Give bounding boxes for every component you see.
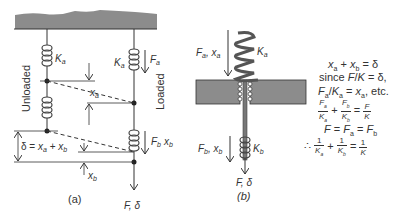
- ground-fixed-support: [15, 10, 157, 29]
- output-label-a: F, δ: [124, 200, 140, 211]
- plate-left: [196, 80, 240, 104]
- bottom-load-label: Fb, xb: [198, 143, 223, 155]
- top-load-label: Fa, xa: [196, 47, 221, 59]
- fraction-1-k: 1K: [359, 138, 366, 157]
- force-a-label: Fa: [150, 54, 160, 66]
- force-b-label: Fb: [151, 136, 161, 148]
- spring-a-loaded: [129, 49, 139, 70]
- diagram-b: Fa, xa Ka Fb, xb Kb F, δ (b): [196, 30, 306, 202]
- spring-a-coil: [235, 33, 258, 81]
- fraction-fa-ka: FaKa: [318, 98, 328, 124]
- fraction-1-kb: 1Kb: [337, 136, 347, 159]
- fraction-1-ka: 1Ka: [314, 136, 324, 159]
- equation-line-2: since F/K = δ,: [319, 71, 387, 83]
- therefore-symbol: ∴: [304, 140, 311, 152]
- caption-b: (b): [237, 190, 251, 202]
- spring-a-loaded-label: Ka: [114, 57, 125, 69]
- delta-label: δ = xa + xb: [21, 141, 67, 153]
- fraction-fb-kb: FbKb: [341, 98, 351, 124]
- output-label-b: F, δ: [236, 177, 252, 188]
- spring-a-label-b: Ka: [257, 46, 268, 58]
- spring-b-unloaded: [42, 97, 52, 118]
- diagram-a: Unloaded Loaded Ka Ka Fa Fb xb xa xb δ =…: [14, 10, 173, 211]
- unloaded-label: Unloaded: [20, 65, 32, 112]
- spring-a-unloaded: [42, 45, 52, 66]
- caption-a: (a): [68, 193, 81, 205]
- loaded-label: Loaded: [154, 73, 166, 110]
- fraction-f-k: FK: [363, 102, 370, 121]
- plate-right: [250, 80, 306, 104]
- spring-b-loaded: [129, 130, 139, 151]
- xa-label: xa: [89, 87, 99, 99]
- equation-line-4: FaKa + FbKb = FK: [318, 98, 371, 124]
- xb-label: xb: [87, 170, 97, 182]
- equation-line-6: ∴ 1Ka + 1Kb = 1K: [304, 136, 367, 159]
- spring-b-label-b: Kb: [253, 143, 264, 155]
- spring-a-unloaded-label: Ka: [55, 53, 66, 65]
- loaded-xb-label: xb: [163, 136, 173, 148]
